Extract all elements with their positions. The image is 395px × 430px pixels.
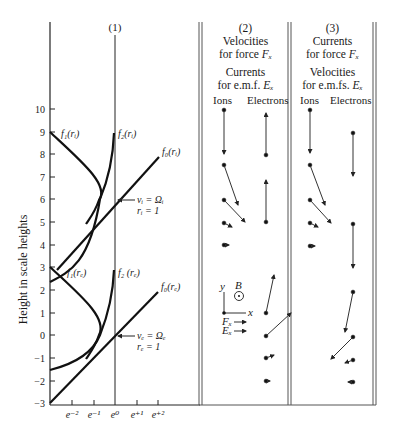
svg-text:e⁻¹: e⁻¹ xyxy=(88,409,101,420)
f2-ri-curve xyxy=(50,133,114,282)
svg-text:f₂ (rₑ): f₂ (rₑ) xyxy=(118,267,141,279)
panel2-line4: for e.m.f. Eₓ xyxy=(203,79,288,92)
panel1-axes xyxy=(50,22,200,405)
svg-text:e⁺¹: e⁺¹ xyxy=(131,409,144,420)
svg-text:−2: −2 xyxy=(34,376,45,387)
panel2-label: (2) xyxy=(203,22,288,35)
svg-text:3: 3 xyxy=(40,262,45,273)
panel2-header: (2) Velocities for force Fₓ Currents for… xyxy=(203,22,288,92)
svg-text:1: 1 xyxy=(40,308,45,319)
panel3-line4: for e.m.fs. Eₓ xyxy=(292,79,373,92)
svg-text:−1: −1 xyxy=(34,353,45,364)
svg-text:e⁰: e⁰ xyxy=(111,409,119,420)
y-axis-label: Height in scale heights xyxy=(16,215,31,325)
svg-text:8: 8 xyxy=(40,149,45,160)
svg-text:f₁(rᵢ): f₁(rᵢ) xyxy=(61,128,80,140)
svg-text:Eₓ: Eₓ xyxy=(221,324,232,336)
panel2-electrons-header: Electrons xyxy=(247,94,289,106)
y-tick-labels: 10 9 8 7 6 5 4 3 2 1 0 −1 −2 −3 xyxy=(34,104,45,409)
panel2-line1: Velocities xyxy=(203,35,288,48)
svg-text:7: 7 xyxy=(40,172,45,183)
svg-text:−3: −3 xyxy=(34,398,45,409)
svg-text:B: B xyxy=(235,279,242,291)
svg-text:f₂(rᵢ): f₂(rᵢ) xyxy=(118,128,137,140)
panel3-electron-vectors xyxy=(331,131,355,384)
svg-text:0: 0 xyxy=(40,330,45,341)
electron-curve-labels: f₁(rₑ) f₂ (rₑ) f₀(rₑ) νₑ = Ωₑ rₑ = 1 xyxy=(67,267,181,352)
f1-ri-curve xyxy=(50,132,101,224)
svg-text:e⁻²: e⁻² xyxy=(66,409,80,420)
svg-text:y: y xyxy=(219,280,225,292)
panel3-line1: Currents xyxy=(292,35,373,48)
svg-text:10: 10 xyxy=(35,104,45,115)
svg-text:x: x xyxy=(247,306,253,318)
svg-text:5: 5 xyxy=(40,217,45,228)
panel2-electron-vectors xyxy=(264,113,291,383)
svg-text:rₑ = 1: rₑ = 1 xyxy=(137,341,160,352)
svg-text:f₀(rᵢ): f₀(rᵢ) xyxy=(162,146,181,158)
svg-text:rᵢ = 1: rᵢ = 1 xyxy=(137,205,159,216)
panel3-ion-vectors xyxy=(308,108,331,248)
panel2-line2: for force Fₓ xyxy=(203,48,288,61)
svg-text:2: 2 xyxy=(40,285,45,296)
panel2-vectors xyxy=(222,108,291,383)
panel2-ions-header: Ions xyxy=(213,94,232,106)
svg-text:f₁(rₑ): f₁(rₑ) xyxy=(67,267,87,279)
panel3-line3: Velocities xyxy=(292,66,373,79)
x-tick-labels: e⁻² e⁻¹ e⁰ e⁺¹ e⁺² xyxy=(66,409,166,420)
panel2-line3: Currents xyxy=(203,66,288,79)
panel3-label: (3) xyxy=(292,22,373,35)
panel2-ion-vectors xyxy=(222,108,245,247)
svg-text:9: 9 xyxy=(40,127,45,138)
svg-text:e⁺²: e⁺² xyxy=(152,409,166,420)
panel3-ions-header: Ions xyxy=(300,94,319,106)
panel3-header: (3) Currents for force Fₓ Velocities for… xyxy=(292,22,373,92)
svg-text:4: 4 xyxy=(40,240,45,251)
panel3-vectors xyxy=(308,108,355,384)
panel3-line2: for force Fₓ xyxy=(292,48,373,61)
svg-text:νₑ = Ωₑ: νₑ = Ωₑ xyxy=(137,330,166,341)
coordinate-legend: y B x Fₓ Eₓ xyxy=(219,279,253,336)
panel3-electrons-header: Electrons xyxy=(330,94,372,106)
f2-re-curve xyxy=(50,270,114,370)
svg-text:νᵢ = Ωᵢ: νᵢ = Ωᵢ xyxy=(137,194,164,205)
panel1-label: (1) xyxy=(109,21,122,34)
ion-curve-labels: f₁(rᵢ) f₂(rᵢ) f₀(rᵢ) νᵢ = Ωᵢ rᵢ = 1 xyxy=(61,128,181,216)
svg-text:6: 6 xyxy=(40,194,45,205)
svg-text:f₀(rₑ): f₀(rₑ) xyxy=(161,281,181,293)
